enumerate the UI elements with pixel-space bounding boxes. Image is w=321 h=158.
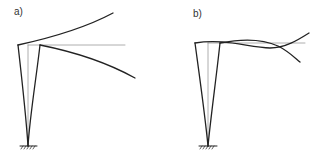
fixed-support-icon: [199, 146, 217, 149]
fixed-support-icon: [20, 146, 37, 149]
deflected-column-left: [18, 45, 28, 146]
deflected-beam-up: [18, 13, 113, 45]
structural-diagram: [0, 0, 321, 158]
deflected-column-right: [208, 43, 220, 146]
deflected-column-left: [195, 43, 208, 146]
panel-a: [18, 13, 135, 149]
panel-b: [195, 33, 309, 149]
deflected-column-right: [28, 45, 40, 146]
deflected-beam-down: [40, 45, 135, 78]
